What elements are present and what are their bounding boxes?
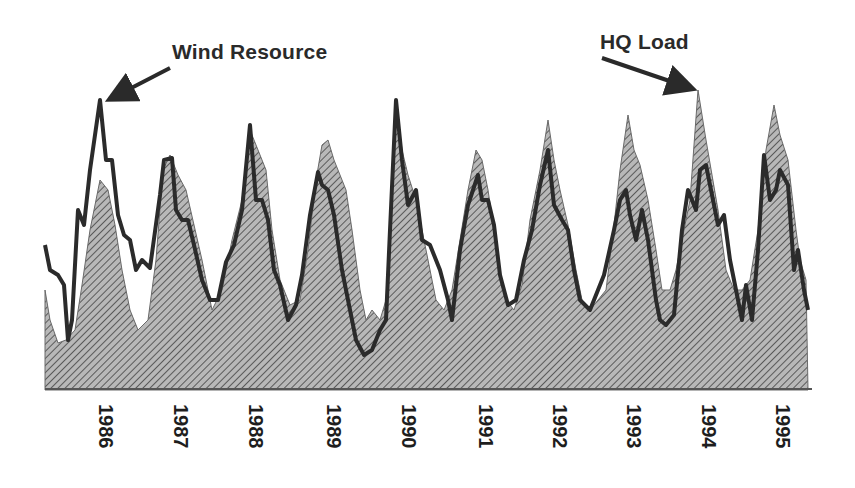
x-tick-1986: 1986 (94, 404, 117, 449)
x-tick-1992: 1992 (548, 404, 571, 449)
x-tick-1994: 1994 (697, 404, 720, 449)
x-tick-1991: 1991 (474, 404, 497, 449)
chart-canvas (0, 0, 855, 488)
x-tick-1987: 1987 (169, 404, 192, 449)
x-tick-1990: 1990 (397, 404, 420, 449)
wind-resource-arrow (112, 68, 170, 98)
x-tick-1995: 1995 (771, 404, 794, 449)
hq-load-label: HQ Load (600, 30, 689, 54)
wind-resource-label: Wind Resource (172, 40, 327, 64)
x-tick-1989: 1989 (322, 404, 345, 449)
x-tick-1988: 1988 (244, 404, 267, 449)
x-tick-1993: 1993 (622, 404, 645, 449)
hq-load-area (45, 90, 808, 390)
hq-load-arrow (602, 58, 690, 88)
